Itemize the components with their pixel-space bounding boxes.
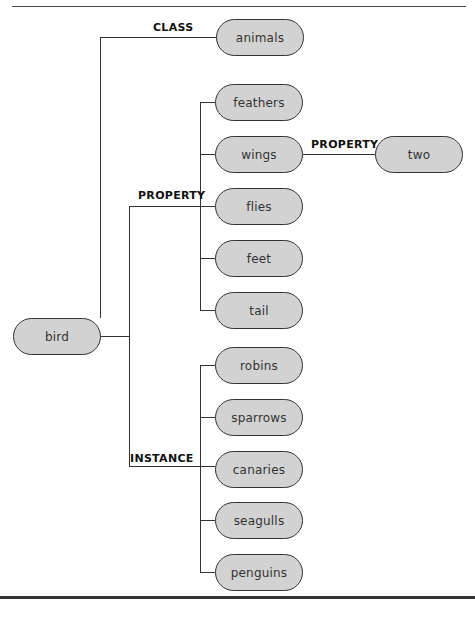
edge-label-property: PROPERTY: [138, 189, 205, 202]
node-sparrows: sparrows: [215, 399, 303, 436]
node-feathers: feathers: [215, 84, 303, 121]
node-tail: tail: [215, 292, 303, 329]
connector-sparrows: [200, 417, 215, 418]
connector-class-horizontal: [100, 37, 217, 38]
connector-branch-vertical: [129, 206, 130, 466]
node-robins: robins: [215, 347, 303, 384]
connector-instance-horizontal: [129, 466, 215, 467]
connector-seagulls: [200, 520, 215, 521]
node-two: two: [375, 136, 463, 173]
node-wings: wings: [215, 136, 303, 173]
edge-label-instance: INSTANCE: [130, 452, 194, 465]
property-trunk: [200, 102, 201, 311]
node-animals: animals: [216, 19, 304, 56]
edge-label-wings-property: PROPERTY: [311, 138, 378, 151]
connector-bird-right: [100, 336, 129, 337]
node-bird: bird: [13, 318, 101, 355]
connector-penguins: [200, 572, 215, 573]
top-rule: [12, 6, 466, 7]
bottom-rule: [0, 596, 475, 599]
instance-trunk: [200, 365, 201, 572]
connector-robins: [200, 365, 215, 366]
connector-feet: [200, 258, 215, 259]
connector-feathers: [200, 102, 215, 103]
node-canaries: canaries: [215, 451, 303, 488]
node-penguins: penguins: [215, 554, 303, 591]
connector-bird-to-class-vertical: [100, 37, 101, 318]
connector-tail: [200, 310, 215, 311]
node-feet: feet: [215, 240, 303, 277]
node-seagulls: seagulls: [215, 502, 303, 539]
connector-wings: [200, 154, 215, 155]
connector-property-horizontal: [129, 206, 215, 207]
node-flies: flies: [215, 188, 303, 225]
edge-label-class: CLASS: [153, 21, 193, 34]
connector-wings-two: [303, 154, 375, 155]
